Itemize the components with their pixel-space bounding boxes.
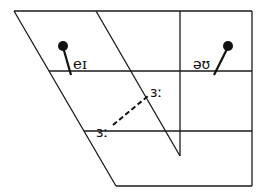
left-edge <box>14 11 116 186</box>
dashed-connector <box>113 96 148 125</box>
ei-label: eɪ <box>73 55 87 73</box>
ou-start-dot <box>223 41 233 51</box>
er-upper-label: ɜː <box>150 84 162 100</box>
central-slant-line <box>96 11 180 156</box>
ou-label: əʊ <box>193 56 210 72</box>
diphthong-ou: əʊ <box>193 41 233 75</box>
vowel-chart: eɪ əʊ ɜː ɜː <box>0 0 265 193</box>
ei-start-dot <box>58 41 68 51</box>
er-lower-label: ɜː <box>96 124 108 140</box>
diphthong-ei: eɪ <box>58 41 87 75</box>
quadrilateral-frame <box>14 11 252 186</box>
